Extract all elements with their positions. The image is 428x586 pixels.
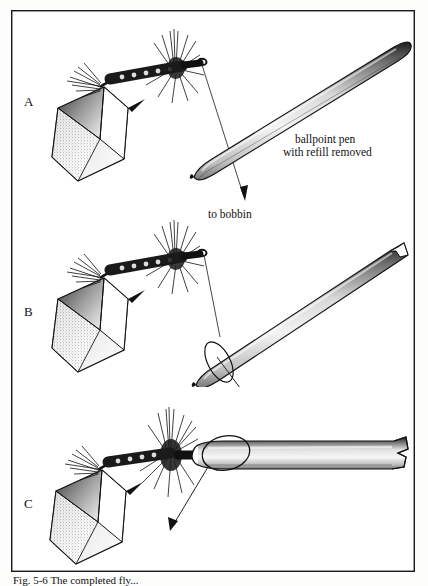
figure-frame: A [11, 10, 415, 572]
ballpoint-pen-label: ballpoint pen with refill removed [295, 133, 372, 159]
ballpoint-pen-a [190, 42, 411, 180]
fly-on-hook-a [67, 29, 207, 103]
ballpoint-pen-label-line1: ballpoint pen [295, 133, 355, 145]
panel-a: A [12, 11, 414, 207]
ballpoint-pen-c [192, 437, 408, 469]
panel-c-artwork [12, 387, 414, 573]
tying-thread-a [202, 65, 248, 201]
panel-a-artwork [12, 11, 414, 207]
figure-page: A [0, 0, 428, 586]
ballpoint-pen-b [192, 243, 408, 387]
fly-on-hook-b [67, 220, 207, 294]
vise-jaws-b [52, 278, 145, 372]
ballpoint-pen-label-line2: with refill removed [283, 146, 372, 159]
panel-c: C [12, 387, 414, 573]
figure-caption: Fig. 5-6 The completed fly... [13, 574, 417, 586]
panel-b: B [12, 207, 414, 387]
panel-b-artwork [12, 207, 414, 387]
vise-jaws-a [52, 87, 145, 181]
vise-jaws-c [50, 470, 143, 564]
tying-thread-b [204, 255, 220, 337]
